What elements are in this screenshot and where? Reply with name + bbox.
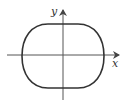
diagram-canvas: y x [0,0,126,105]
x-axis-label: x [112,57,119,70]
y-axis-label: y [50,5,58,18]
